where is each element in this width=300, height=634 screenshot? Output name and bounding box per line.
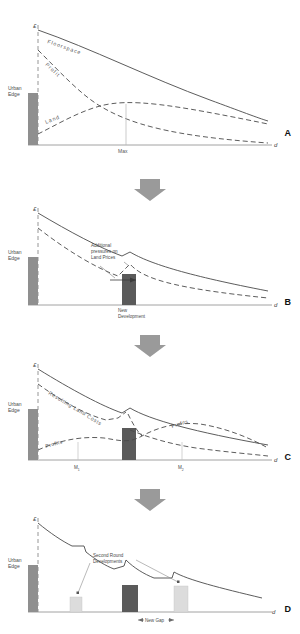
marker-2-label: M2: [178, 465, 184, 472]
y-axis-label: £: [32, 516, 37, 522]
new-gap-arrow-right: [169, 618, 174, 622]
second-round-bar-2: [174, 586, 188, 612]
profits-curve-1: [38, 424, 268, 451]
figure-container: £ d Urban Edge Floorspace Profit Land Ma…: [0, 0, 300, 634]
annotation-line-2: pressures on: [91, 249, 118, 254]
panel-d: £ d Urban Edge Second Round Developments…: [0, 510, 300, 634]
urban-edge-label-line2: Edge: [8, 563, 20, 569]
annotation-line-1: Additional: [91, 243, 111, 248]
x-axis-label: d: [274, 302, 278, 308]
annotation-leader-left: [78, 563, 90, 593]
composite-rent-curve: [38, 523, 262, 598]
panel-c-chart: £ d Urban Edge Resulting Land Costs Prof…: [0, 356, 300, 478]
profits-label-left: Profits: [45, 438, 63, 449]
max-label: Max: [118, 148, 128, 154]
panel-letter-c: C: [285, 452, 292, 462]
urban-edge-label-line2: Edge: [8, 255, 20, 261]
second-round-bar-1: [70, 597, 82, 612]
annotation-leader-right: [136, 560, 178, 582]
down-arrow-icon: [133, 488, 167, 512]
new-development-bar: [122, 585, 138, 612]
land-price-curve: [38, 228, 268, 298]
land-curve: [38, 103, 268, 134]
x-axis-label: d: [274, 142, 278, 148]
panel-a-chart: £ d Urban Edge Floorspace Profit Land Ma…: [0, 0, 300, 158]
new-development-line-1: New: [118, 308, 128, 313]
y-axis-label: £: [32, 362, 37, 368]
panel-b: £ d Urban Edge Additional pressures on L…: [0, 200, 300, 320]
x-axis-label: d: [272, 609, 276, 615]
annotation-dot-left: [77, 592, 80, 595]
panel-letter-b: B: [285, 297, 292, 307]
marker-1-label: M1: [74, 465, 80, 472]
resulting-land-costs-label: Resulting Land Costs: [47, 390, 103, 427]
annotation-dot-right: [177, 581, 180, 584]
urban-edge-label-line2: Edge: [8, 407, 20, 413]
panel-d-chart: £ d Urban Edge Second Round Developments…: [0, 510, 300, 634]
panel-a: £ d Urban Edge Floorspace Profit Land Ma…: [0, 0, 300, 158]
down-arrow-icon: [133, 178, 167, 202]
annotation-leader-1: [100, 266, 115, 278]
profits-curve-2: [130, 430, 268, 456]
y-axis-label: £: [32, 206, 37, 212]
urban-edge-label-line2: Edge: [8, 91, 20, 97]
profit-label: Profit: [44, 61, 61, 78]
urban-edge-bar: [28, 257, 38, 305]
new-gap-arrow-left: [138, 618, 143, 622]
new-development-line-2: Development: [118, 314, 146, 319]
x-axis-label: d: [274, 457, 278, 463]
urban-edge-bar: [28, 409, 38, 460]
urban-edge-bar: [28, 93, 38, 145]
panel-letter-d: D: [285, 604, 292, 614]
profits-label-right: Profits: [171, 418, 190, 429]
y-axis-label: £: [32, 23, 37, 29]
floorspace-label: Floorspace: [47, 38, 83, 55]
urban-edge-bar: [28, 565, 38, 612]
new-gap-label: New Gap: [145, 618, 165, 623]
annotation-leader-2: [124, 262, 129, 266]
panel-c: £ d Urban Edge Resulting Land Costs Prof…: [0, 356, 300, 478]
panel-b-chart: £ d Urban Edge Additional pressures on L…: [0, 200, 300, 320]
land-label: Land: [44, 114, 61, 125]
down-arrow-icon: [133, 334, 167, 358]
annotation-line-3: Land Prices: [91, 255, 116, 260]
panel-letter-a: A: [285, 128, 292, 138]
profit-curve: [38, 50, 268, 143]
new-development-bar: [122, 428, 136, 460]
annotation-line-1: Second Round: [93, 553, 124, 558]
new-development-bar: [122, 274, 136, 305]
floorspace-curve: [38, 30, 268, 121]
annotation-line-2: Developments: [93, 559, 123, 564]
